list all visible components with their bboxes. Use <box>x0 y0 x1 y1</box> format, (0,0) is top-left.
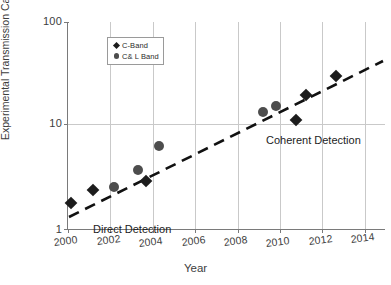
gridline-2014 <box>365 22 366 229</box>
x-tick-2010 <box>280 229 281 233</box>
gridline-10 <box>68 124 385 125</box>
y-tick-label-100: 100 <box>32 15 62 27</box>
legend-diamond-marker-icon <box>111 43 122 48</box>
x-tick-label-2010: 2010 <box>265 234 290 249</box>
data-point-c-and-l-band <box>133 165 143 175</box>
legend-entry-c-band[interactable]: C-Band <box>111 41 159 51</box>
x-tick-label-2008: 2008 <box>223 233 248 248</box>
x-tick-2000 <box>68 229 69 233</box>
x-tick-label-2000: 2000 <box>53 233 78 248</box>
y-tick-mark-100 <box>64 22 69 23</box>
chart-screenshot: Experimental Transmission Capacity (Tb/s… <box>0 0 391 285</box>
annotation-coherent-detection: Coherent Detection <box>266 134 361 146</box>
y-axis-title-line1: Experimental Transmission Capacity <box>0 0 12 180</box>
legend-entry-c-and-l-band[interactable]: C& L Band <box>111 51 159 61</box>
data-point-c-band <box>330 70 343 83</box>
y-tick-mark-1 <box>64 229 68 230</box>
data-point-c-and-l-band <box>271 101 281 111</box>
x-tick-label-2004: 2004 <box>138 234 163 249</box>
data-point-c-band <box>140 175 153 188</box>
gridline-2010 <box>280 22 281 229</box>
x-tick-label-2002: 2002 <box>96 232 121 247</box>
x-tick-label-2006: 2006 <box>181 233 206 248</box>
data-point-c-and-l-band <box>258 107 268 117</box>
gridline-2006 <box>195 22 196 229</box>
gridline-2008 <box>238 22 239 229</box>
x-axis-title: Year <box>0 262 391 274</box>
data-point-c-band <box>300 89 313 102</box>
legend-label-c-band: C-Band <box>122 41 148 50</box>
legend[interactable]: C-Band C& L Band <box>107 37 164 65</box>
data-point-c-and-l-band <box>109 182 119 192</box>
x-tick-label-2014: 2014 <box>350 230 375 245</box>
legend-circle-marker-icon <box>111 53 122 59</box>
legend-label-c-and-l-band: C& L Band <box>122 52 159 61</box>
x-tick-2008 <box>238 229 239 233</box>
y-tick-label-10: 10 <box>32 117 62 129</box>
data-point-c-band <box>65 197 78 210</box>
x-tick-2006 <box>195 229 196 233</box>
data-point-c-band <box>87 184 100 197</box>
y-tick-label-1: 1 <box>32 223 62 235</box>
data-point-c-and-l-band <box>154 141 164 151</box>
gridline-2012 <box>322 22 323 229</box>
x-tick-label-2012: 2012 <box>308 232 333 247</box>
y-tick-mark-10 <box>64 124 68 125</box>
